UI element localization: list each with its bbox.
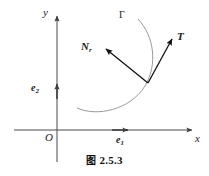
normal-vector-letter: N (81, 40, 89, 52)
normal-vector-subscript: r (89, 46, 92, 54)
normal-vector-arrow (106, 49, 148, 83)
curve-gamma-label: Γ (119, 10, 125, 20)
basis-e2-subscript: 2 (35, 87, 39, 95)
x-axis-label: x (195, 133, 200, 144)
tangent-vector-label: T (177, 31, 184, 42)
figure-caption: 图2.5.3 (0, 152, 209, 167)
curve-gamma-path (77, 19, 153, 112)
y-axis-label: y (43, 7, 48, 18)
basis-vector-e2-label: e2 (31, 83, 39, 93)
caption-cjk-word: 图 (86, 155, 96, 166)
normal-vector-label: Nr (81, 41, 92, 52)
figure-container: y x O e1 e2 Γ T Nr 图2.5.3 (0, 0, 209, 176)
origin-label: O (45, 132, 53, 143)
caption-number: 2.5.3 (100, 154, 123, 166)
basis-e1-subscript: 1 (120, 139, 124, 147)
basis-vector-e1-label: e1 (116, 135, 124, 145)
